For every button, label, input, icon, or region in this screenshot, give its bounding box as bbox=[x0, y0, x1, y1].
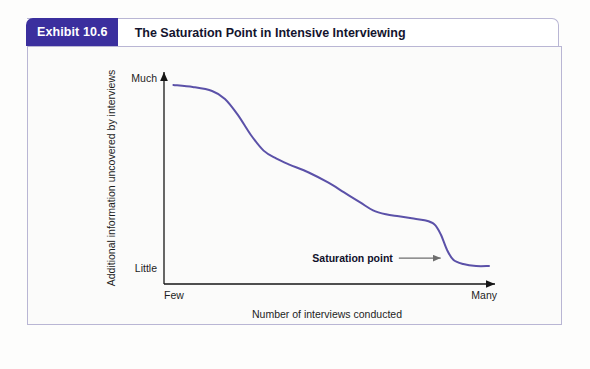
saturation-point-label: Saturation point bbox=[312, 252, 393, 264]
y-axis-tick-little: Little bbox=[135, 262, 157, 274]
exhibit-title: The Saturation Point in Intensive Interv… bbox=[118, 19, 406, 46]
x-axis-tick-few: Few bbox=[164, 289, 184, 301]
y-axis-tick-much: Much bbox=[131, 72, 157, 84]
x-axis-tick-many: Many bbox=[471, 289, 497, 301]
exhibit-figure: Exhibit 10.6 The Saturation Point in Int… bbox=[0, 0, 590, 369]
saturation-curve-line bbox=[173, 85, 489, 266]
exhibit-header: Exhibit 10.6 The Saturation Point in Int… bbox=[27, 18, 559, 46]
x-axis-label: Number of interviews conducted bbox=[252, 308, 402, 320]
exhibit-number-badge: Exhibit 10.6 bbox=[26, 18, 118, 46]
chart-container: Much Little Few Many Number of interview… bbox=[27, 46, 562, 325]
saturation-curve-chart: Much Little Few Many Number of interview… bbox=[27, 46, 562, 325]
y-axis-label: Additional information uncovered by inte… bbox=[105, 70, 117, 287]
